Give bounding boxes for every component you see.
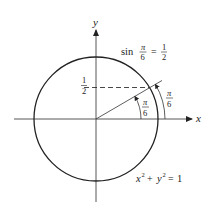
unit-circle-diagram: y x sin π 6 = 1 2 1 2 π 6 π 6 x 2 + y 2 … <box>0 0 211 209</box>
eq-y-sup: 2 <box>163 171 166 178</box>
sin-rhs-den: 2 <box>162 52 166 62</box>
y-tick-den: 2 <box>82 86 86 96</box>
outer-angle-arc <box>156 85 166 120</box>
inner-angle-label: π 6 <box>142 97 149 118</box>
sin-rhs-num: 1 <box>162 42 166 52</box>
y-tick-half-label: 1 2 <box>81 75 87 96</box>
angle-ray <box>96 81 162 120</box>
sin-func: sin <box>121 46 134 57</box>
eq-rhs: 1 <box>177 173 182 184</box>
eq-plus: + <box>147 173 153 184</box>
eq-y: y <box>156 173 162 184</box>
inner-angle-arc <box>135 97 141 120</box>
outer-angle-label: π 6 <box>166 88 173 109</box>
y-tick-num: 1 <box>82 75 86 85</box>
outer-angle-den: 6 <box>167 99 171 109</box>
inner-angle-den: 6 <box>143 108 147 118</box>
outer-angle-num: π <box>167 88 172 98</box>
sin-arg-num: π <box>141 42 146 52</box>
eq-x: x <box>135 173 141 184</box>
sin-equation-label: sin π 6 = 1 2 <box>121 42 167 62</box>
x-axis-label: x <box>195 112 201 124</box>
eq-x-sup: 2 <box>142 171 145 178</box>
sin-arg-den: 6 <box>141 52 145 62</box>
circle-equation-label: x 2 + y 2 = 1 <box>135 171 182 184</box>
eq-equals: = <box>168 173 174 184</box>
sin-equals: = <box>151 46 157 57</box>
inner-angle-num: π <box>143 97 148 107</box>
y-axis-label: y <box>92 16 98 28</box>
